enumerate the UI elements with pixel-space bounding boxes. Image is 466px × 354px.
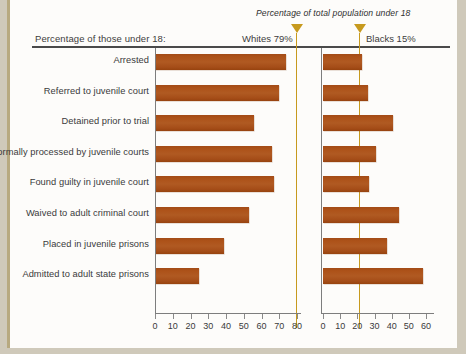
bar-row	[321, 48, 457, 79]
axis-tick	[191, 314, 192, 319]
bar	[323, 54, 362, 70]
category-label: Formally processed by juvenile courts	[0, 147, 149, 157]
category-label: Referred to juvenile court	[44, 86, 149, 96]
percentage-of-those-under-18-label: Percentage of those under 18:	[35, 33, 166, 44]
axis-tick	[297, 314, 298, 319]
bar	[323, 176, 369, 192]
bar	[323, 268, 423, 284]
population-note-label: Percentage of total population under 18	[256, 8, 410, 18]
axis-tick-label: 60	[416, 321, 436, 331]
axis-tick	[226, 314, 227, 319]
frame-band-right	[457, 0, 466, 354]
axis-tick	[279, 314, 280, 319]
axis-tick	[208, 314, 209, 319]
whites-marker-label: Whites 79%	[242, 33, 293, 44]
frame-band-left	[0, 0, 7, 354]
category-label: Found guilty in juvenile court	[30, 177, 149, 187]
category-label: Arrested	[113, 55, 149, 65]
axis-tick	[375, 314, 376, 319]
axis-tick	[244, 314, 245, 319]
bar-row	[321, 262, 457, 293]
axis-tick	[340, 314, 341, 319]
whites-marker-triangle-icon	[291, 24, 303, 33]
axis-tick	[323, 314, 324, 319]
blacks-bar-rows	[321, 48, 457, 293]
axis-tick	[357, 314, 358, 319]
bar-row	[321, 109, 457, 140]
axis-tick	[392, 314, 393, 319]
category-label: Placed in juvenile prisons	[43, 239, 149, 249]
bar-row	[321, 170, 457, 201]
bar	[323, 238, 387, 254]
category-label: Admitted to adult state prisons	[22, 269, 149, 279]
category-label: Waived to adult criminal court	[26, 208, 149, 218]
blacks-y-axis	[321, 48, 322, 313]
blacks-marker-label: Blacks 15%	[366, 33, 416, 44]
whites-chart-panel: ArrestedReferred to juvenile courtDetain…	[10, 48, 310, 333]
chart-header: Percentage of those under 18: Percentage…	[10, 0, 457, 55]
blacks-chart-panel: 0102030405060	[315, 48, 457, 333]
blacks-x-axis	[321, 313, 434, 314]
blacks-marker-triangle-icon	[354, 24, 366, 33]
frame-band-bottom	[0, 348, 466, 354]
axis-tick-label: 80	[287, 321, 307, 331]
axis-tick	[426, 314, 427, 319]
bar-row	[321, 232, 457, 263]
bar	[323, 115, 393, 131]
bar-row	[321, 79, 457, 110]
whites-plot-area: 01020304050607080	[155, 48, 310, 333]
blacks-plot-area: 0102030405060	[321, 48, 457, 333]
whites-y-axis	[155, 48, 156, 313]
axis-tick	[173, 314, 174, 319]
bar	[323, 85, 368, 101]
axis-tick	[409, 314, 410, 319]
axis-tick	[262, 314, 263, 319]
bar	[323, 146, 376, 162]
category-label: Detained prior to trial	[62, 116, 149, 126]
bar-row	[321, 140, 457, 171]
charts-container: ArrestedReferred to juvenile courtDetain…	[10, 48, 457, 348]
bar-row	[321, 201, 457, 232]
axis-tick	[155, 314, 156, 319]
chart-canvas: Percentage of those under 18: Percentage…	[10, 0, 457, 348]
bar	[323, 207, 399, 223]
